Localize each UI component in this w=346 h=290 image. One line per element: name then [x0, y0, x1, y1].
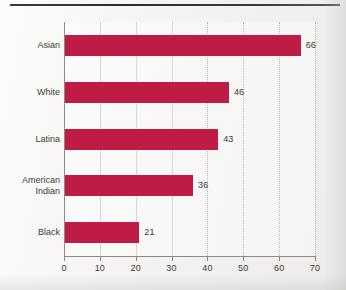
x-tick-10 — [100, 257, 101, 261]
y-axis-line — [64, 22, 65, 257]
x-tick-label-70: 70 — [302, 263, 328, 273]
x-tick-70 — [315, 257, 316, 261]
x-tick-50 — [243, 257, 244, 261]
bar-chart-figure: 010203040506070 AsianWhiteLatinaAmerican… — [0, 0, 346, 290]
bar-value-label: 46 — [234, 82, 244, 103]
bar — [64, 222, 139, 243]
x-tick-60 — [279, 257, 280, 261]
gridline-50 — [243, 22, 244, 256]
x-tick-30 — [172, 257, 173, 261]
x-tick-0 — [64, 257, 65, 261]
category-label: Latina — [2, 134, 60, 145]
category-label: White — [2, 87, 60, 98]
x-tick-label-40: 40 — [194, 263, 220, 273]
category-label: Asian — [2, 40, 60, 51]
category-label: Black — [2, 227, 60, 238]
bar — [64, 129, 218, 150]
bar-value-label: 21 — [144, 222, 154, 243]
x-tick-20 — [136, 257, 137, 261]
x-tick-label-60: 60 — [266, 263, 292, 273]
gridline-60 — [279, 22, 280, 256]
x-tick-label-50: 50 — [230, 263, 256, 273]
header-rule — [10, 4, 340, 6]
category-label: American Indian — [2, 175, 60, 196]
x-tick-label-10: 10 — [87, 263, 113, 273]
bar-value-label: 36 — [198, 175, 208, 196]
bar — [64, 35, 301, 56]
bar-value-label: 43 — [223, 129, 233, 150]
gridline-70 — [315, 22, 316, 256]
bar — [64, 82, 229, 103]
bar-value-label: 66 — [306, 35, 316, 56]
x-tick-40 — [207, 257, 208, 261]
paper-bottom-shading — [0, 274, 346, 290]
x-tick-label-0: 0 — [51, 263, 77, 273]
paper-edge-shading — [324, 0, 346, 290]
x-tick-label-20: 20 — [123, 263, 149, 273]
plot-area — [64, 22, 315, 256]
x-tick-label-30: 30 — [159, 263, 185, 273]
bar — [64, 175, 193, 196]
